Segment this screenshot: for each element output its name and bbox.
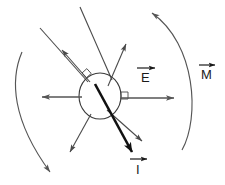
vector-label-E-group: E (137, 68, 155, 85)
rotation-arc-left (15, 52, 50, 172)
central-circle (79, 73, 121, 119)
vector-label-M: M (201, 67, 212, 82)
physics-vector-diagram: E M I (0, 0, 225, 185)
ray-reflected-upper-left (62, 50, 90, 82)
vector-label-I: I (136, 162, 140, 177)
vector-label-E: E (141, 70, 150, 85)
bold-current-vector-group (95, 84, 132, 152)
ray-incident-upper-left (40, 28, 88, 82)
diagram-canvas: E M I (0, 0, 225, 185)
ray-current-bold (95, 84, 132, 152)
rotation-arcs-group (15, 13, 192, 172)
ray-transmitted-lower-left (70, 114, 91, 152)
central-body-group (79, 73, 121, 119)
vector-label-I-group: I (130, 159, 147, 177)
ray-reflected-upper-right (108, 44, 126, 86)
rotation-arc-right (152, 13, 192, 150)
horizontal-field-arrows-group (42, 97, 174, 98)
incident-rays-group (40, 7, 112, 82)
ray-incident-upper-mid (80, 7, 112, 80)
vector-label-M-group: M (199, 65, 215, 82)
